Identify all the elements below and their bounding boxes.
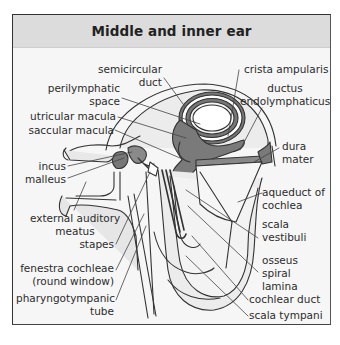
label-line: aqueduct of (262, 186, 325, 199)
label-aqueduct-of-cochlea: aqueduct of cochlea (262, 186, 325, 212)
label-dura-mater: dura mater (282, 140, 314, 166)
label-external-auditory-meatus: external auditory meatus (30, 212, 120, 238)
label-pharyngotympanic-tube: pharyngotympanic tube (16, 292, 114, 318)
label-line: space (36, 95, 120, 108)
label-line: external auditory (30, 212, 120, 225)
label-saccular-macula: saccular macula (20, 124, 114, 137)
label-cochlear-duct: cochlear duct (249, 293, 320, 306)
incus (128, 146, 146, 163)
label-utricular-macula: utricular macula (20, 110, 116, 123)
label-line: fenestra cochleae (20, 262, 114, 275)
label-ductus-endolymphaticus: ductus endolymphaticus (240, 82, 330, 108)
label-perilymphatic-space: perilymphatic space (36, 82, 120, 108)
label-line: vestibuli (262, 231, 306, 244)
label-line: mater (282, 153, 314, 166)
label-scala-vestibuli: scala vestibuli (262, 218, 306, 244)
label-line: cochlea (262, 199, 325, 212)
label-line: lamina (262, 280, 298, 293)
label-line: spiral (262, 267, 298, 280)
label-osseus-spiral-lamina: osseus spiral lamina (262, 254, 298, 293)
label-stapes: stapes (60, 238, 114, 251)
label-line: scala (262, 218, 306, 231)
label-line: tube (16, 305, 114, 318)
label-line: endolymphaticus (240, 95, 330, 108)
malleus (112, 151, 128, 168)
label-incus: incus (20, 160, 66, 173)
label-scala-tympani: scala tympani (249, 309, 323, 322)
label-crista-ampularis: crista ampularis (244, 63, 328, 76)
label-fenestra-cochleae: fenestra cochleae (round window) (20, 262, 114, 288)
label-line: (round window) (20, 275, 114, 288)
label-line: pharyngotympanic (16, 292, 114, 305)
label-malleus: malleus (20, 173, 66, 186)
label-line: osseus (262, 254, 298, 267)
label-line: perilymphatic (36, 82, 120, 95)
label-line: ductus (240, 82, 330, 95)
label-line: meatus (30, 225, 120, 238)
label-line: semicircular (96, 63, 162, 76)
label-line: dura (282, 140, 314, 153)
